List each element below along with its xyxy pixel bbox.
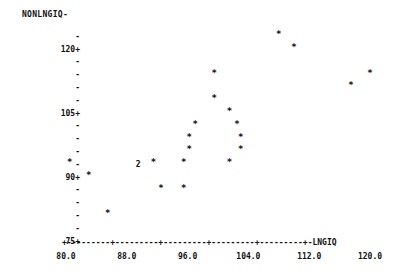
data-point: * [158, 183, 163, 192]
data-point: * [276, 30, 281, 39]
x-tick-label-96-0: 96.0 [178, 252, 197, 261]
x-tick-label-112-0: 112.0 [297, 252, 321, 261]
scatter-plot-screen: NONLNGIQ- 75+----90+----105+----120+- **… [0, 0, 408, 279]
data-point-overlap: 2 [136, 160, 141, 169]
data-point: * [227, 107, 232, 116]
data-point: * [238, 132, 243, 141]
data-point: * [186, 145, 191, 154]
data-point: * [234, 119, 239, 128]
data-point: * [348, 81, 353, 90]
data-point: * [151, 158, 156, 167]
x-tick-label-120-0: 120.0 [358, 252, 382, 261]
data-point: * [181, 158, 186, 167]
data-point: * [181, 183, 186, 192]
data-point: * [67, 158, 72, 167]
x-tick-label-88-0: 88.0 [117, 252, 136, 261]
data-point: * [238, 145, 243, 154]
x-axis-dashes: +---------+---------+---------+---------… [62, 238, 312, 247]
data-point: * [192, 119, 197, 128]
x-axis-label: LNGIQ [312, 238, 336, 247]
data-point: * [291, 43, 296, 52]
data-point: * [186, 132, 191, 141]
x-axis-line: +---------+---------+---------+---------… [62, 238, 337, 248]
data-point: * [211, 94, 216, 103]
data-point: * [86, 171, 91, 180]
data-point: * [105, 209, 110, 218]
data-point: * [227, 158, 232, 167]
data-point: * [211, 68, 216, 77]
data-point: * [367, 68, 372, 77]
x-tick-label-104-0: 104.0 [236, 252, 260, 261]
x-tick-label-80-0: 80.0 [56, 252, 75, 261]
x-axis-tick-labels: 80.088.096.0104.0112.0120.0 [0, 252, 408, 266]
